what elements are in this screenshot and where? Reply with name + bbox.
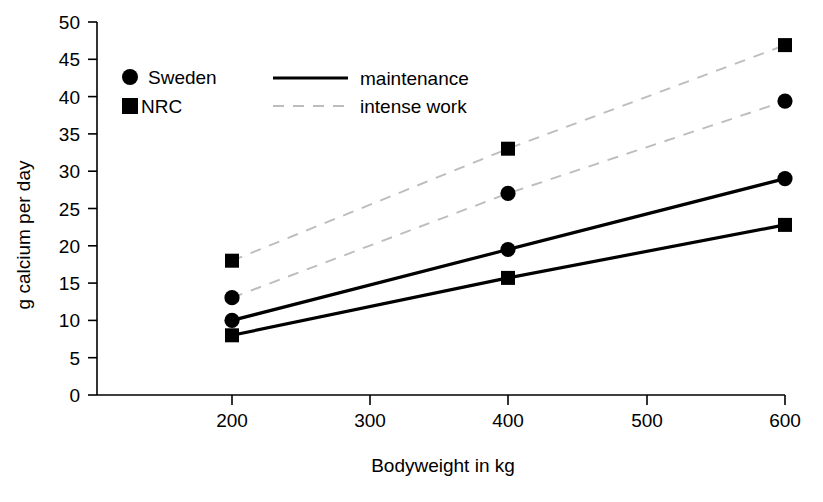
data-point-marker — [777, 171, 792, 186]
calcium-requirement-line-chart: 50 45 40 35 30 25 20 15 10 5 0 200 300 4… — [0, 0, 823, 502]
data-point-marker — [500, 242, 515, 257]
y-axis-title: g calcium per day — [13, 160, 34, 309]
data-point-marker — [500, 186, 515, 201]
y-tick-label: 40 — [59, 87, 80, 108]
data-point-marker — [225, 254, 239, 268]
y-tick-label: 45 — [59, 49, 80, 70]
y-tick-label: 10 — [59, 310, 80, 331]
legend-square-icon — [122, 98, 138, 114]
y-tick-label: 25 — [59, 199, 80, 220]
data-point-marker — [224, 290, 239, 305]
legend-label-maintenance: maintenance — [360, 68, 469, 89]
chart-container: 50 45 40 35 30 25 20 15 10 5 0 200 300 4… — [0, 0, 823, 502]
x-tick-label: 500 — [631, 410, 663, 431]
y-tick-label: 0 — [69, 385, 80, 406]
data-point-marker — [501, 271, 515, 285]
data-point-marker — [224, 313, 239, 328]
y-tick-label: 50 — [59, 12, 80, 33]
y-tick-label: 35 — [59, 124, 80, 145]
x-tick-label: 600 — [769, 410, 801, 431]
x-tick-label: 200 — [216, 410, 248, 431]
y-axis-tick-labels: 50 45 40 35 30 25 20 15 10 5 0 — [59, 12, 80, 406]
x-tick-label: 400 — [492, 410, 524, 431]
chart-legend: Sweden NRC maintenance intense work — [122, 67, 469, 117]
data-point-marker — [777, 94, 792, 109]
data-point-marker — [778, 218, 792, 232]
y-tick-label: 15 — [59, 273, 80, 294]
x-axis-title: Bodyweight in kg — [371, 455, 515, 476]
legend-label-intense-work: intense work — [360, 96, 467, 117]
legend-circle-icon — [122, 69, 138, 85]
data-point-marker — [778, 38, 792, 52]
legend-label-nrc: NRC — [141, 96, 182, 117]
y-tick-label: 5 — [69, 348, 80, 369]
series-nrc-maintenance — [225, 218, 792, 342]
x-axis-tick-labels: 200 300 400 500 600 — [216, 410, 801, 431]
x-tick-label: 300 — [354, 410, 386, 431]
series-nrc-intense-work — [225, 38, 792, 268]
y-tick-label: 30 — [59, 161, 80, 182]
y-tick-label: 20 — [59, 236, 80, 257]
y-axis-ticks — [88, 22, 97, 395]
legend-label-sweden: Sweden — [148, 67, 217, 88]
data-point-marker — [225, 328, 239, 342]
x-axis-ticks — [232, 395, 785, 405]
data-point-marker — [501, 142, 515, 156]
